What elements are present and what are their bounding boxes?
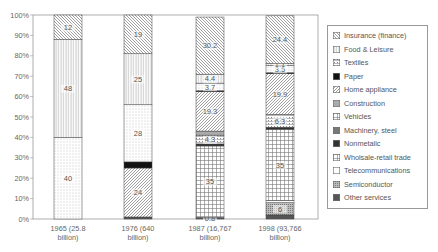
segment-value-label: 19.9 — [273, 90, 288, 99]
y-tick-label: 0% — [18, 215, 29, 224]
legend-item: Construction — [333, 97, 427, 111]
segment-value-label: 24 — [134, 188, 142, 197]
segment-value-label: 35 — [206, 177, 214, 186]
segment-value-label: 35 — [276, 161, 284, 170]
legend-swatch-icon — [333, 113, 340, 120]
y-tick-label: 100% — [10, 11, 29, 20]
legend-label: Telecommunications — [344, 166, 410, 175]
x-category-label: billion) — [199, 233, 220, 242]
legend-swatch-icon — [333, 154, 340, 161]
y-tick-label: 20% — [14, 174, 29, 183]
x-category-label: 1965 (25.8 — [51, 224, 86, 233]
segment-value-label: 6.3 — [275, 117, 285, 126]
segment-value-label: 6 — [278, 205, 282, 214]
y-tick-label: 80% — [14, 51, 29, 60]
legend-swatch-icon — [333, 100, 340, 107]
legend-item: Vehicles — [333, 110, 427, 124]
segment-value-label: 4.4 — [205, 74, 215, 83]
legend-item: Home appliance — [333, 83, 427, 97]
legend-label: Vehicles — [344, 112, 371, 121]
legend-swatch-icon — [333, 127, 340, 134]
legend-label: Nonmetalic — [344, 139, 381, 148]
bar-2: 0.8354.319.33.74.430.2 — [196, 17, 224, 223]
legend-swatch-icon — [333, 32, 340, 39]
segment-value-label: 19.3 — [203, 107, 218, 116]
segment-value-label: 4.3 — [205, 135, 215, 144]
segment-value-label: 24.4 — [273, 35, 288, 44]
y-tick-label: 90% — [14, 31, 29, 40]
bar-segment — [266, 127, 294, 129]
bar-3: 6356.319.93.51.124.4 — [266, 16, 294, 219]
legend-swatch-icon — [333, 194, 340, 201]
bar-0: 404812 — [54, 15, 82, 219]
legend-label: Wholsale-retail trade — [344, 153, 411, 162]
legend-label: Home appliance — [344, 85, 397, 94]
legend-swatch-icon — [333, 86, 340, 93]
bar-segment — [266, 201, 294, 203]
bar-segment — [124, 217, 152, 219]
legend-swatch-icon — [333, 181, 340, 188]
y-tick-label: 40% — [14, 133, 29, 142]
legend-swatch-icon — [333, 140, 340, 147]
legend-item: Nonmetalic — [333, 137, 427, 151]
y-tick-label: 60% — [14, 92, 29, 101]
legend-label: Construction — [344, 99, 385, 108]
segment-value-label: 12 — [64, 23, 72, 32]
legend-item: Food & Leisure — [333, 43, 427, 57]
legend-label: Insurance (finance) — [344, 31, 406, 40]
legend-item: Semiconductor — [333, 178, 427, 192]
chart-bars: 404812242825190.8354.319.33.74.430.26356… — [54, 15, 294, 223]
segment-value-label: 25 — [134, 75, 142, 84]
x-category-label: billion) — [127, 233, 148, 242]
segment-value-label: 19 — [134, 30, 142, 39]
segment-value-label: 48 — [64, 84, 72, 93]
legend-swatch-icon — [333, 46, 340, 53]
legend-item: Textiles — [333, 56, 427, 70]
legend-swatch-icon — [333, 167, 340, 174]
bar-segment — [266, 215, 294, 219]
y-tick-label: 70% — [14, 72, 29, 81]
y-tick-label: 10% — [14, 194, 29, 203]
chart-legend: Insurance (finance)Food & LeisureTextile… — [327, 25, 428, 209]
legend-swatch-icon — [333, 59, 340, 66]
segment-value-label: 30.2 — [203, 41, 218, 50]
legend-item: Wholsale-retail trade — [333, 151, 427, 165]
legend-label: Food & Leisure — [344, 45, 394, 54]
bar-segment — [124, 162, 152, 168]
segment-value-label: 3.7 — [205, 83, 215, 92]
bar-segment — [196, 131, 224, 135]
legend-item: Telecommunications — [333, 164, 427, 178]
legend-label: Textiles — [344, 58, 368, 67]
x-category-label: billion) — [269, 233, 290, 242]
legend-item: Other services — [333, 191, 427, 205]
x-category-label: billion) — [57, 233, 78, 242]
y-tick-label: 50% — [14, 113, 29, 122]
segment-value-label: 40 — [64, 174, 72, 183]
legend-label: Machinery, steel — [344, 126, 397, 135]
y-tick-label: 30% — [14, 153, 29, 162]
legend-item: Machinery, steel — [333, 124, 427, 138]
x-category-label: 1976 (640 — [122, 224, 155, 233]
x-category-label: 1998 (93,766 — [258, 224, 301, 233]
legend-label: Semiconductor — [344, 180, 393, 189]
legend-label: Paper — [344, 72, 363, 81]
legend-item: Insurance (finance) — [333, 29, 427, 43]
segment-value-label: 28 — [134, 129, 142, 138]
legend-label: Other services — [344, 193, 391, 202]
legend-swatch-icon — [333, 73, 340, 80]
bar-1: 24282519 — [124, 15, 152, 219]
legend-item: Paper — [333, 70, 427, 84]
x-category-label: 1987 (16,767 — [188, 224, 231, 233]
